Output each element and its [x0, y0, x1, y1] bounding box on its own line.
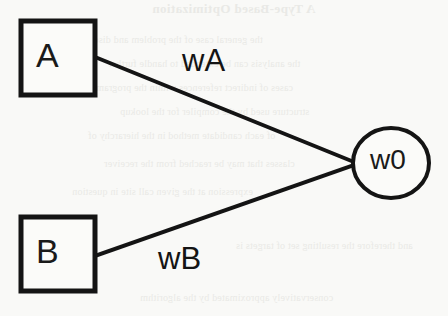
edge-label-wa: wA [182, 45, 225, 76]
node-label-a: A [36, 38, 59, 72]
diagram-canvas: A Type-Based Optimization the general ca… [0, 0, 448, 316]
edge-label-wb: wB [158, 243, 201, 274]
edge-line-wB [95, 165, 354, 256]
node-label-w0: w0 [370, 146, 406, 174]
node-label-b: B [36, 234, 59, 268]
